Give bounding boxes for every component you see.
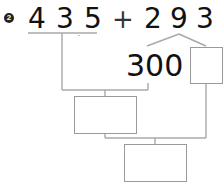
operand1-ones: 5	[84, 4, 102, 34]
operand2-ones: 3	[196, 4, 214, 34]
decomposed-part-300: 300	[126, 50, 183, 82]
problem-number-badge: 2	[4, 13, 14, 23]
operand2-tens: 9	[170, 4, 188, 34]
operand1-tens: 3	[56, 4, 74, 34]
answer-box-partial-sum[interactable]	[74, 96, 137, 134]
plus-sign: +	[112, 4, 134, 34]
answer-box-remainder[interactable]	[190, 47, 223, 84]
operand2-hundreds: 2	[144, 4, 162, 34]
operand1-hundreds: 4	[28, 4, 46, 34]
answer-box-final-sum[interactable]	[124, 144, 187, 182]
